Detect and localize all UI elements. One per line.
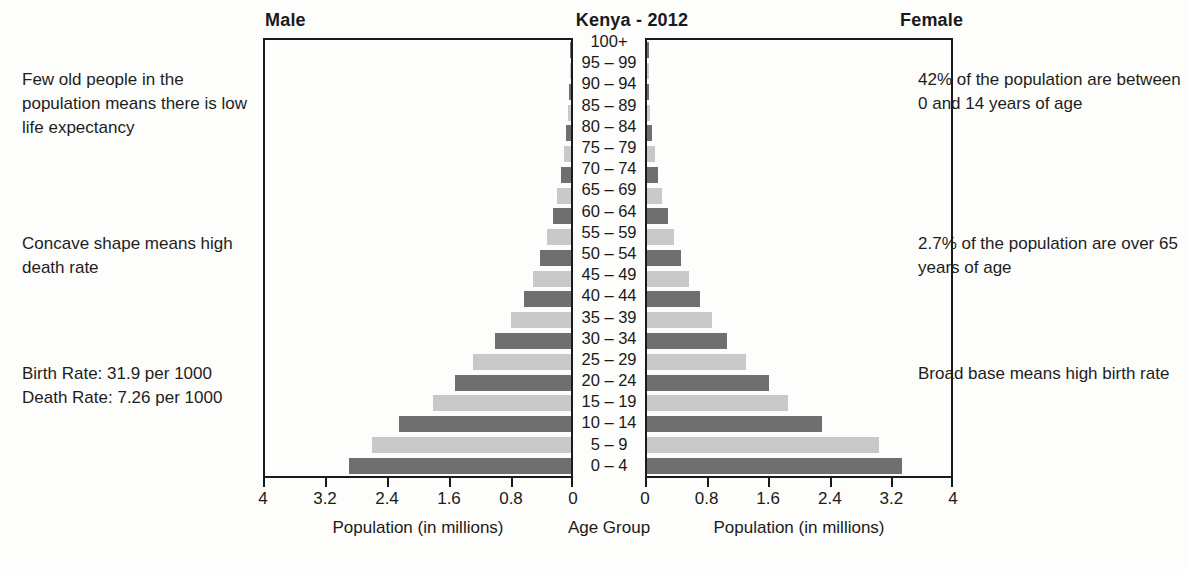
bar-row: [647, 331, 951, 352]
axis-tick: [830, 478, 832, 487]
axis-tick-label: 0.8: [499, 489, 523, 509]
bar-female-5–9: [647, 437, 879, 453]
axis-tick-label: 1.6: [756, 489, 780, 509]
bar-row: [265, 206, 571, 227]
age-group-caption: Age Group: [568, 518, 650, 538]
bar-row: [265, 393, 571, 414]
bar-row: [647, 40, 951, 61]
bar-row: [647, 81, 951, 102]
axis-tick: [325, 478, 327, 487]
bar-female-45–49: [647, 271, 689, 287]
axis-tick-label: 2.4: [818, 489, 842, 509]
axis-tick: [449, 478, 451, 487]
axis-tick-label: 1.6: [437, 489, 461, 509]
age-group-label: 50 – 54: [573, 243, 645, 264]
bar-male-70–74: [561, 167, 571, 183]
bar-female-30–34: [647, 333, 727, 349]
annotation-birth-death-rates: Birth Rate: 31.9 per 1000 Death Rate: 7.…: [22, 362, 257, 410]
bar-row: [265, 123, 571, 144]
axis-tick: [263, 478, 265, 487]
axis-tick-label: 4: [948, 489, 957, 509]
bar-row: [265, 351, 571, 372]
bar-male-0–4: [349, 458, 571, 474]
bar-male-100+: [570, 42, 572, 58]
bar-female-100+: [647, 42, 649, 58]
age-group-label: 55 – 59: [573, 222, 645, 243]
axis-tick-label: 0: [640, 489, 649, 509]
bar-row: [265, 102, 571, 123]
bar-row: [647, 310, 951, 331]
bar-female-15–19: [647, 395, 788, 411]
axis-tick-label: 3.2: [880, 489, 904, 509]
bar-male-40–44: [524, 291, 571, 307]
bar-male-5–9: [372, 437, 571, 453]
annotation-broad-base: Broad base means high birth rate: [918, 362, 1186, 386]
female-bar-group: [647, 40, 951, 476]
bar-male-90–94: [569, 84, 571, 100]
axis-tick: [891, 478, 893, 487]
bar-row: [265, 40, 571, 61]
age-group-label: 0 – 4: [573, 455, 645, 476]
bar-male-45–49: [533, 271, 571, 287]
bar-female-50–54: [647, 250, 681, 266]
axis-tick: [951, 478, 953, 487]
bar-row: [647, 123, 951, 144]
annotation-life-expectancy: Few old people in the population means t…: [22, 68, 257, 140]
bar-row: [647, 102, 951, 123]
bar-row: [265, 414, 571, 435]
axis-tick-label: 0: [568, 489, 577, 509]
age-group-label: 100+: [573, 31, 645, 52]
bar-female-60–64: [647, 208, 668, 224]
bar-male-95–99: [570, 63, 572, 79]
age-group-label: 60 – 64: [573, 201, 645, 222]
bar-row: [647, 248, 951, 269]
age-group-label: 40 – 44: [573, 285, 645, 306]
annotation-youth-share: 42% of the population are between 0 and …: [918, 68, 1186, 116]
age-group-label: 90 – 94: [573, 73, 645, 94]
axis-tick: [511, 478, 513, 487]
bar-female-40–44: [647, 291, 700, 307]
bar-row: [265, 61, 571, 82]
bar-row: [647, 372, 951, 393]
age-group-label: 95 – 99: [573, 52, 645, 73]
bar-row: [265, 372, 571, 393]
bar-female-25–29: [647, 354, 746, 370]
bar-female-90–94: [647, 84, 649, 100]
bar-row: [265, 268, 571, 289]
female-column-heading: Female: [900, 10, 963, 31]
male-axis-caption: Population (in millions): [332, 518, 503, 538]
female-axis-caption: Population (in millions): [713, 518, 884, 538]
axis-tick-label: 2.4: [375, 489, 399, 509]
bar-row: [265, 331, 571, 352]
bar-male-35–39: [511, 312, 571, 328]
bar-row: [647, 434, 951, 455]
bar-row: [265, 165, 571, 186]
age-group-label: 65 – 69: [573, 179, 645, 200]
bar-female-10–14: [647, 416, 822, 432]
bar-male-85–89: [568, 105, 571, 121]
bar-male-75–79: [564, 146, 571, 162]
bar-row: [647, 455, 951, 476]
bar-row: [647, 165, 951, 186]
female-axis-ticks: 00.81.62.43.24: [645, 478, 953, 487]
bar-row: [265, 289, 571, 310]
bar-row: [647, 206, 951, 227]
axis-tick-label: 3.2: [313, 489, 337, 509]
bar-row: [647, 393, 951, 414]
bar-male-80–84: [566, 125, 571, 141]
bar-female-0–4: [647, 458, 902, 474]
bar-row: [265, 434, 571, 455]
annotation-elderly-share: 2.7% of the population are over 65 years…: [918, 232, 1186, 280]
age-group-label: 20 – 24: [573, 370, 645, 391]
male-column-heading: Male: [265, 10, 306, 31]
bar-female-55–59: [647, 229, 674, 245]
bar-row: [647, 351, 951, 372]
bar-row: [647, 414, 951, 435]
axis-tick: [768, 478, 770, 487]
age-group-label: 15 – 19: [573, 391, 645, 412]
axis-tick: [571, 478, 573, 487]
age-group-label: 75 – 79: [573, 137, 645, 158]
bar-row: [265, 144, 571, 165]
bar-female-95–99: [647, 63, 649, 79]
bar-female-65–69: [647, 188, 662, 204]
